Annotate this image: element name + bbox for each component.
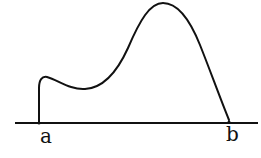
function-diagram: a b [0, 0, 261, 158]
label-a: a [40, 126, 52, 146]
label-b: b [226, 124, 239, 144]
function-curve [39, 3, 229, 123]
